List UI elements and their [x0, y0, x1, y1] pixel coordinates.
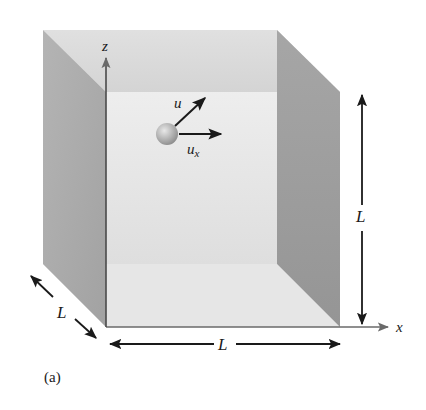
- width-label: L: [217, 335, 227, 354]
- depth-dimension-arrow-down: [75, 319, 96, 338]
- x-axis-label: x: [395, 319, 403, 335]
- particle: [156, 123, 178, 145]
- figure-caption: (a): [44, 369, 61, 386]
- depth-dimension-arrow-up: [31, 276, 53, 297]
- z-axis-label: z: [101, 38, 108, 54]
- depth-label: L: [56, 303, 66, 322]
- cube-diagram: x z u ux L L L (a): [0, 0, 426, 410]
- height-label: L: [355, 207, 365, 226]
- velocity-label: u: [174, 95, 182, 111]
